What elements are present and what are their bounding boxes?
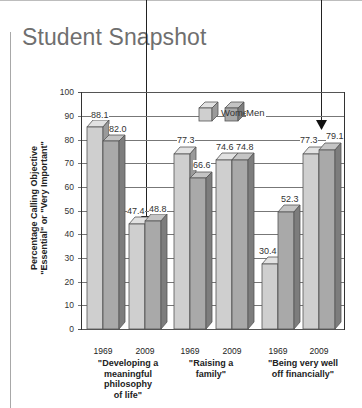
value-label-g1-2009-men: 48.8 [149,204,167,214]
value-label-g1-1969-men: 82.0 [109,124,127,134]
bar-g3-2009-men [319,143,341,329]
x-year-g1-1969: 1969 [83,346,123,356]
value-label-g2-1969-men: 66.6 [193,160,211,170]
x-year-g2-1969: 1969 [170,346,210,356]
x-category-2: "Raising a family" [166,358,256,379]
value-label-g2-2009-women: 74.6 [216,142,234,152]
bar-g1-1969-men [103,135,125,329]
x-year-g1-2009: 2009 [125,346,165,356]
value-label-g2-1969-women: 77.3 [177,135,195,145]
x-year-g3-1969: 1969 [258,346,298,356]
bar-g1-2009-men [145,214,167,329]
bar-g2-1969-men [190,172,212,329]
value-label-g2-2009-men: 74.8 [236,142,254,152]
legend-men-label: Men [246,107,266,118]
bar-g2-2009-men [232,153,254,329]
x-category-3: "Being very well off financially" [253,358,353,379]
value-label-g3-2009-women: 77.3 [300,135,318,145]
legend-women-swatch [199,102,218,121]
value-label-g1-2009-women: 47.4 [127,206,145,216]
chart: Percentage Calling Objective "Essential"… [0,0,362,408]
x-category-1: "Developing a meaningful philosophy of l… [78,358,178,400]
value-label-g3-1969-women: 30.4 [259,246,277,256]
value-label-g3-1969-men: 52.3 [281,194,299,204]
x-year-g2-2009: 2009 [212,346,252,356]
value-label-g3-2009-men: 79.1 [326,131,344,141]
bar-g3-1969-men [278,205,300,329]
value-label-g1-1969-women: 88.1 [91,110,109,120]
x-year-g3-2009: 2009 [299,346,339,356]
